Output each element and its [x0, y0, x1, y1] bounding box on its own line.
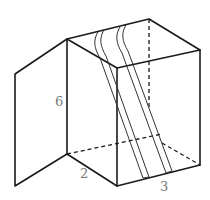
- box-hidden-edges: [67, 19, 200, 165]
- box-visible-edges: [67, 19, 200, 186]
- open-side-panel: [15, 39, 67, 186]
- width-label: 2: [80, 166, 88, 181]
- strip-2: [117, 25, 172, 173]
- height-label: 6: [55, 94, 63, 109]
- box-diagram: 6 2 3: [0, 0, 210, 200]
- depth-label: 3: [160, 179, 168, 194]
